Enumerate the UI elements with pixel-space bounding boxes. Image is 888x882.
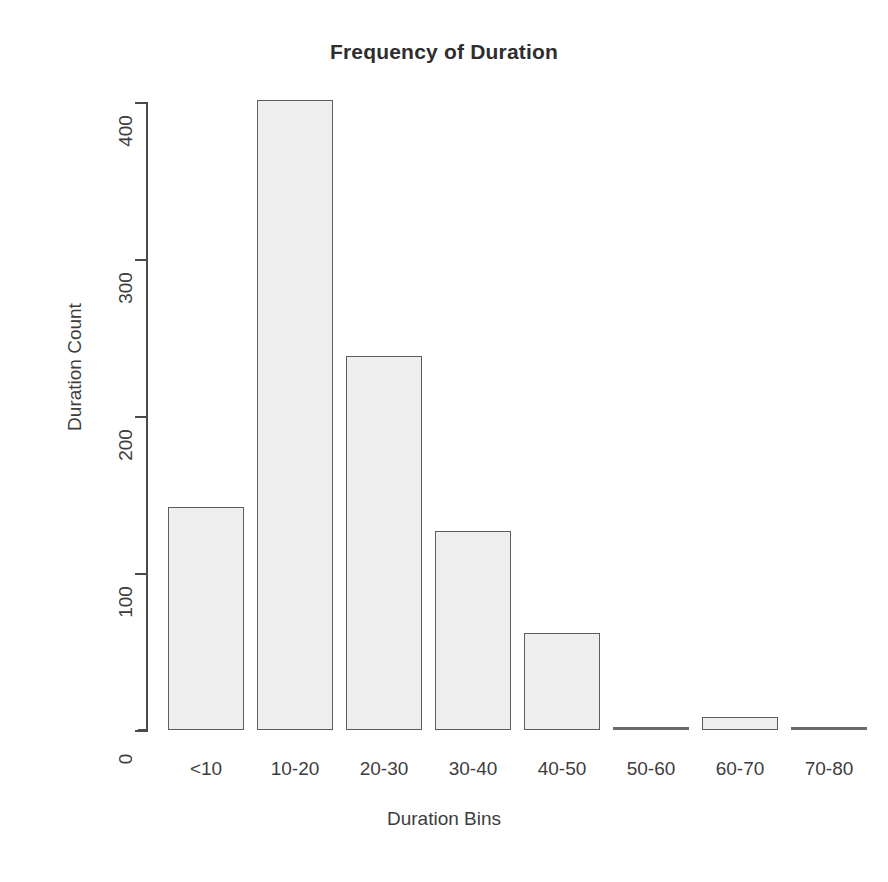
x-axis-title: Duration Bins: [0, 808, 888, 830]
x-tick-label-50-60: 50-60: [606, 758, 696, 780]
x-tick-label-40-50: 40-50: [517, 758, 607, 780]
bar-10-20: [257, 100, 333, 730]
y-tick-label-200: 200: [115, 415, 137, 475]
x-tick-label-10-20: 10-20: [250, 758, 340, 780]
bar-50-60: [613, 727, 689, 730]
y-tick-label-100: 100: [115, 572, 137, 632]
x-tick-label-70-80: 70-80: [784, 758, 874, 780]
y-tick-label-400: 400: [115, 101, 137, 161]
bar-40-50: [524, 633, 600, 730]
x-tick-label-60-70: 60-70: [695, 758, 785, 780]
bar-60-70: [702, 717, 778, 730]
y-tick-label-300: 300: [115, 258, 137, 318]
x-tick-label-30-40: 30-40: [428, 758, 518, 780]
chart-title: Frequency of Duration: [0, 40, 888, 64]
x-tick-label-20-30: 20-30: [339, 758, 429, 780]
bar-30-40: [435, 531, 511, 730]
histogram-figure: Frequency of Duration 0 100 200 300 400 …: [0, 0, 888, 882]
y-tick-label-0: 0: [115, 729, 137, 789]
bar-70-80: [791, 727, 867, 730]
bar-<10: [168, 507, 244, 730]
x-tick-label-<10: <10: [161, 758, 251, 780]
y-axis-title: Duration Count: [64, 287, 86, 447]
bar-20-30: [346, 356, 422, 730]
